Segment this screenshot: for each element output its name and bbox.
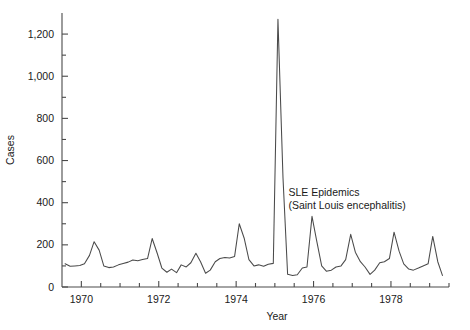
y-axis-major-ticks [62, 34, 68, 287]
annotation-sle-epidemics-line2: (Saint Louis encephalitis) [288, 199, 405, 211]
y-tick-label: 1,000 [28, 70, 54, 82]
y-tick-label: 1,200 [28, 28, 54, 40]
y-tick-label: 600 [36, 154, 54, 166]
x-axis-tick-labels: 19701972197419761978 [70, 293, 403, 305]
y-tick-label: 0 [48, 281, 54, 293]
y-tick-label: 800 [36, 112, 54, 124]
x-axis-title: Year [266, 310, 288, 322]
x-tick-label: 1978 [379, 293, 403, 305]
y-tick-label: 400 [36, 196, 54, 208]
x-tick-label: 1972 [147, 293, 171, 305]
chart-canvas: 02004006008001,0001,200 1970197219741976… [0, 0, 470, 330]
x-tick-label: 1974 [224, 293, 248, 305]
y-axis-title: Cases [4, 135, 16, 165]
y-axis-tick-labels: 02004006008001,0001,200 [28, 28, 54, 293]
x-axis-major-ticks [81, 281, 391, 287]
x-tick-label: 1970 [70, 293, 94, 305]
x-axis-minor-ticks [101, 283, 449, 287]
data-series-cases [65, 19, 442, 275]
annotation-sle-epidemics-line1: SLE Epidemics [288, 186, 359, 198]
x-tick-label: 1976 [302, 293, 326, 305]
y-tick-label: 200 [36, 238, 54, 250]
sle-cases-line-chart: 02004006008001,0001,200 1970197219741976… [0, 0, 470, 330]
